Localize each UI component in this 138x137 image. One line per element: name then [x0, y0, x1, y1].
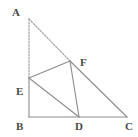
- segment-EF: [29, 61, 70, 78]
- segment-AF: [29, 19, 70, 61]
- vertex-label-C: C: [125, 121, 133, 132]
- geometry-figure: A B C D E F: [0, 0, 138, 137]
- vertex-label-D: D: [75, 121, 83, 132]
- geometry-canvas: [0, 0, 138, 137]
- segment-FD: [70, 61, 79, 117]
- vertex-label-F: F: [80, 57, 87, 68]
- vertex-label-E: E: [16, 86, 23, 97]
- vertex-label-A: A: [12, 7, 20, 18]
- segment-FC: [70, 61, 127, 117]
- segments-group: [29, 19, 127, 117]
- vertex-label-B: B: [16, 121, 23, 132]
- segment-ED: [29, 78, 79, 117]
